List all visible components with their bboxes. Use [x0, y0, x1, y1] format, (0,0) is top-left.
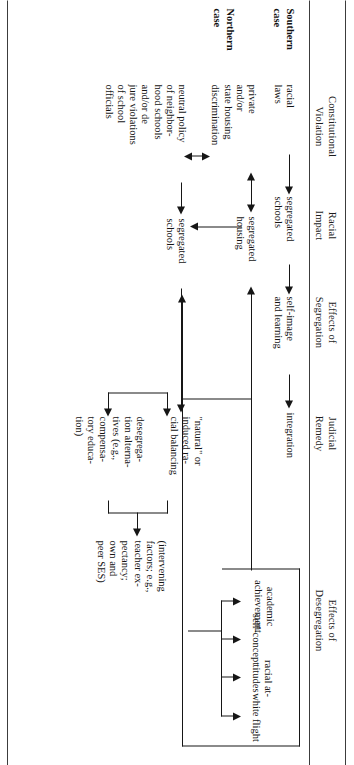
column-header-racial-impact: Racial Impact	[313, 186, 338, 264]
node-self-image-and-learning: self-image and learning	[272, 296, 296, 380]
arrowhead-segregated-housing-down	[190, 222, 198, 230]
arrowhead-academic-achievement	[233, 597, 241, 605]
node-segregated-schools-northern: segregated schools	[164, 218, 188, 292]
connector-self-image-to-integration	[289, 374, 290, 402]
arrowhead-bracket-to-racial-balancing	[164, 408, 172, 416]
node-natural-or-induced-racial-balancing: "natural" or induced ra- cial balancing	[167, 416, 204, 506]
node-segregated-schools-southern: segregated schools	[272, 196, 296, 270]
connector-segregated-schools-to-self-image	[289, 264, 290, 288]
connector-violation-bidirectional	[190, 155, 204, 156]
column-header-constitutional-violation: Constitutional Violation	[313, 78, 338, 174]
arrowhead-self-image-to-integration	[286, 400, 294, 408]
outcome-fanout-bus	[221, 600, 222, 716]
connector-racial-laws-to-segregated-schools	[289, 154, 290, 188]
desegregation-flow-diagram: Constitutional Violation Racial Impact E…	[0, 0, 354, 765]
bracket-to-intervening-from-racial-balancing	[167, 500, 168, 513]
feedback-inner-left-vertical	[182, 398, 252, 399]
column-header-effects-of-segregation: Effects of Segregation	[313, 274, 338, 370]
connector-to-intervening-factors	[137, 512, 138, 530]
bracket-remedy-stem-vertical	[108, 392, 168, 393]
node-intervening-factors: (intervening factors; e.g., teacher ex- …	[95, 540, 168, 626]
arrowhead-racial-laws-to-segregated-schools	[286, 186, 294, 194]
bracket-to-intervening-stem-vertical	[108, 512, 168, 513]
connector-housing-bidirectional	[251, 178, 252, 206]
row-label-northern-case: Northern case	[211, 8, 236, 74]
node-racial-laws: racial laws	[272, 84, 296, 154]
node-desegregation-alternatives: desegrega- tion alterna- tives (e.g., co…	[73, 416, 146, 504]
arrowhead-down-violation-bidirectional	[184, 152, 192, 160]
feedback-inner-return	[251, 292, 252, 400]
rule-bottom	[7, 0, 8, 765]
arrowhead-neutral-policy-to-segregated-schools	[178, 206, 186, 214]
arrowhead-feedback-outer-into-segregated-schools	[178, 294, 186, 302]
feedback-outer-top	[299, 568, 300, 746]
column-header-judicial-remedy: Judicial Remedy	[313, 388, 338, 478]
rule-top	[345, 0, 346, 765]
outcome-fanout-stem	[188, 630, 222, 631]
feedback-outer-return	[182, 300, 183, 746]
arrowhead-racial-attitudes	[233, 673, 241, 681]
bracket-to-intervening-from-desegregation-alternatives	[108, 500, 109, 513]
node-white-flight: white flight	[250, 682, 262, 752]
row-label-southern-case: Southern case	[271, 8, 296, 74]
arrowhead-self-concept	[233, 635, 241, 643]
node-private-state-housing-discrimination: private and/or state housing discriminat…	[209, 84, 258, 168]
connector-neutral-policy-to-segregated-schools	[181, 182, 182, 208]
rule-header	[309, 0, 310, 765]
arrowhead-segregated-schools-to-self-image	[286, 286, 294, 294]
feedback-outer-far-right-vertical	[182, 745, 300, 746]
feedback-outer-right-vertical	[222, 568, 300, 569]
node-neutral-policy-of-neighborhood-schools: neutral policy of neighbor- hood schools…	[103, 84, 188, 180]
arrowhead-white-flight	[233, 712, 241, 720]
connector-segregated-housing-to-segregated-schools	[196, 226, 242, 227]
column-header-effects-of-desegregation: Effects of Desegregation	[313, 560, 338, 680]
node-integration: integration	[284, 412, 296, 482]
figure-stage: Constitutional Violation Racial Impact E…	[0, 0, 354, 765]
arrowhead-to-intervening-factors	[134, 528, 142, 536]
arrowhead-right-housing-bidirectional	[248, 204, 256, 212]
arrowhead-bracket-to-desegregation-alternatives	[105, 408, 113, 416]
feedback-inner-top	[251, 398, 252, 570]
